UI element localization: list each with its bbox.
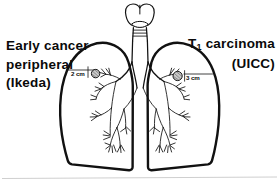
trachea	[132, 28, 148, 62]
t1-carcinoma-label-line-2: (UICC)	[188, 57, 275, 71]
early-cancer-label: Early cancer peripheral (Ikeda)	[6, 39, 89, 90]
t1-carcinoma-label: T1 carcinoma (UICC)	[188, 37, 275, 71]
t1-carcinoma-label-line-1: T1 carcinoma	[188, 37, 275, 52]
left-tumor-size: 2 cm	[71, 71, 85, 77]
t1-suffix: carcinoma	[202, 36, 275, 51]
lung-cancer-diagram: Early cancer peripheral (Ikeda) T1 carci…	[0, 0, 279, 188]
glottis	[132, 21, 149, 27]
early-cancer-label-line-1: Early cancer	[6, 39, 89, 53]
baseline-rule	[2, 177, 277, 179]
anatomy-illustration	[0, 0, 279, 188]
early-cancer-label-line-2: peripheral	[6, 58, 89, 72]
early-cancer-label-line-3: (Ikeda)	[6, 76, 89, 90]
left-tumor-nodule	[91, 69, 99, 77]
right-tumor-nodule	[173, 71, 182, 80]
right-tumor-size: 3 cm	[186, 75, 200, 81]
